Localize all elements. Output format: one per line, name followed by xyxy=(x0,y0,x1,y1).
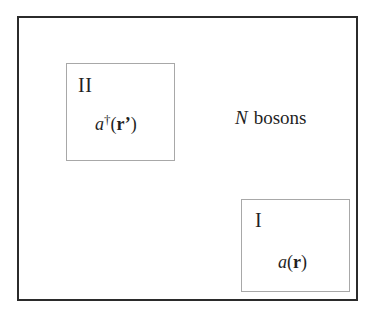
particle-count-annotation: Nbosons xyxy=(235,108,306,127)
region-label-one: I xyxy=(255,210,262,230)
region-box-two: II a†(r’) xyxy=(66,63,175,161)
operator-argument: r xyxy=(293,252,301,272)
operator-symbol: a xyxy=(95,114,104,134)
region-label-two: II xyxy=(78,75,92,95)
operator-close-paren: ) xyxy=(301,252,307,272)
region-box-one: I a(r) xyxy=(241,199,350,292)
particle-count-noun: bosons xyxy=(254,107,307,128)
operator-annihilation-region-one: a(r) xyxy=(278,250,307,271)
particle-count-symbol: N xyxy=(235,107,248,128)
operator-symbol: a xyxy=(278,252,287,272)
system-boundary: II a†(r’) Nbosons I a(r) xyxy=(17,16,358,301)
operator-creation-region-two: a†(r’) xyxy=(95,112,137,133)
operator-argument: r xyxy=(117,114,125,134)
dagger-icon: † xyxy=(104,112,111,127)
operator-close-paren: ) xyxy=(131,114,137,134)
